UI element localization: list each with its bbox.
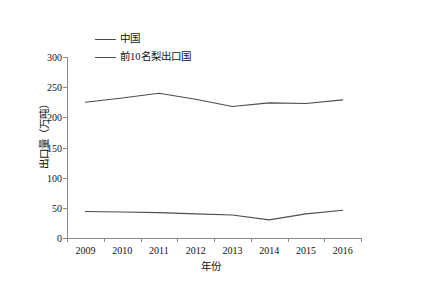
y-axis-tick [63,57,67,58]
y-axis-tick-label: 0 [10,233,62,244]
x-axis-tick [361,238,362,242]
x-axis-tick [288,238,289,242]
x-axis-tick-label: 2014 [259,245,279,256]
y-axis-tick [63,87,67,88]
y-axis-tick [63,117,67,118]
y-axis-tick-label: 50 [10,202,62,213]
x-axis-title: 年份 [0,258,421,273]
x-axis-tick [214,238,215,242]
plot-area [67,57,361,238]
x-axis-tick [104,238,105,242]
x-axis-tick [251,238,252,242]
x-axis-tick [177,238,178,242]
x-axis-tick [324,238,325,242]
x-axis-tick [67,238,68,242]
chart-figure: 中国 前10名梨出口国 050100150200250300 200920102… [0,0,421,295]
y-axis-tick [63,178,67,179]
y-axis-title-anchor: 出口量（万吨） [40,57,41,238]
x-axis-tick [141,238,142,242]
y-axis-tick [63,148,67,149]
x-axis-tick-label: 2015 [296,245,316,256]
x-axis-tick-label: 2013 [222,245,242,256]
x-axis-tick-label: 2016 [333,245,353,256]
x-axis-tick-label: 2010 [112,245,132,256]
legend-line-swatch-china [95,39,116,40]
x-axis-tick-label: 2012 [186,245,206,256]
series-lines [67,57,361,238]
series-line-top10 [85,93,342,106]
legend-item-china: 中国 [95,30,191,48]
y-axis-tick-label: 100 [10,172,62,183]
series-line-china [85,210,342,220]
y-axis-line [67,57,68,238]
x-axis-tick-label: 2011 [149,245,169,256]
legend-label-china: 中国 [120,34,140,45]
x-axis-tick-label: 2009 [75,245,95,256]
y-axis-tick-labels: 050100150200250300 [0,57,62,238]
y-axis-tick [63,208,67,209]
y-axis-title: 出口量（万吨） [36,99,51,169]
y-axis-tick-label: 300 [10,52,62,63]
y-axis-tick-label: 250 [10,82,62,93]
